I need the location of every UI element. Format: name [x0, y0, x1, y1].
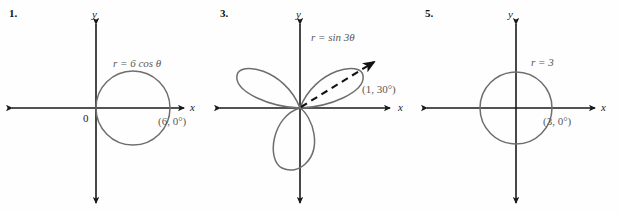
x-axis-label-1: x: [190, 102, 195, 113]
equation-label-1: r = 6 cos θ: [113, 58, 161, 69]
panel-problem-5: 5. r = 3 (3, 0°): [415, 0, 619, 213]
point-label-5: (3, 0°): [543, 116, 571, 127]
y-axis-label-5: y: [508, 9, 513, 20]
rose-petal-150: [237, 67, 300, 110]
rose-petal-270: [273, 108, 314, 170]
panel-problem-1: 1. r = 6 cos θ (6,: [0, 0, 210, 213]
point-label-1: (6, 0°): [158, 116, 186, 127]
equation-label-5: r = 3: [531, 57, 554, 68]
polar-plot-5: [415, 0, 619, 213]
x-axis-label-3: x: [398, 102, 403, 113]
polar-plot-1: [0, 0, 210, 213]
origin-label-1: 0: [83, 113, 89, 124]
point-label-3: (1, 30°): [362, 84, 396, 95]
panel-problem-3: 3.: [210, 0, 415, 213]
x-axis-label-5: x: [601, 102, 606, 113]
y-axis-label-3: y: [296, 9, 301, 20]
y-axis-label-1: y: [92, 9, 97, 20]
polar-graphs-figure-sheet: 1. r = 6 cos θ (6,: [0, 0, 619, 213]
equation-label-3: r = sin 3θ: [311, 32, 355, 43]
